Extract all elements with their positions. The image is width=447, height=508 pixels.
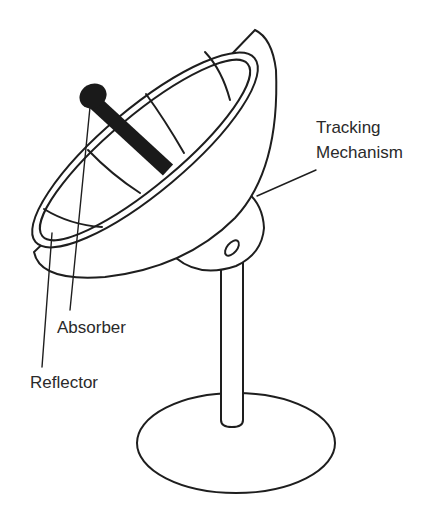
tracking-leader-line xyxy=(257,170,316,196)
diagram-drawing xyxy=(0,0,447,508)
tracking-label-line1: Tracking xyxy=(316,119,381,136)
tracking-label-line2: Mechanism xyxy=(316,144,403,161)
absorber-label: Absorber xyxy=(57,319,126,336)
solar-dish-diagram: Tracking Mechanism Absorber Reflector xyxy=(0,0,447,508)
reflector-label: Reflector xyxy=(30,374,98,391)
stand-pole xyxy=(221,262,243,427)
